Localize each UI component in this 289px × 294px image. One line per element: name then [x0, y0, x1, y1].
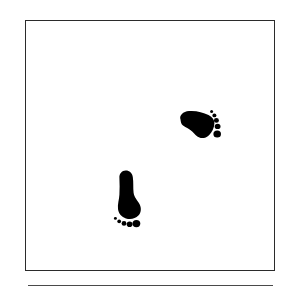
square-border-frame: [25, 20, 275, 271]
horizontal-rule: [28, 285, 273, 286]
figure-canvas: [0, 0, 289, 294]
